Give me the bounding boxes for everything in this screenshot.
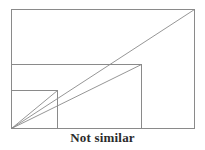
diagonal-large-line [12,10,195,129]
figure-container: Not similar [0,0,205,150]
figure-caption: Not similar [0,130,205,146]
diagonal-medium-line [12,65,142,129]
nested-rectangles-diagram [0,0,205,150]
